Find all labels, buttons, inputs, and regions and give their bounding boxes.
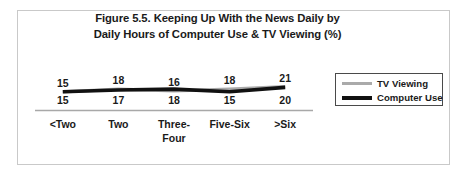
computer-use-value-label: 15 bbox=[217, 94, 243, 106]
computer-use-value-label: 17 bbox=[105, 94, 131, 106]
computer-use-value-label: 18 bbox=[161, 94, 187, 106]
category-axis-labels: <TwoTwoThree-FourFive-Six>Six bbox=[35, 118, 313, 156]
computer-use-line-swatch-icon bbox=[342, 96, 372, 100]
category-label-line: Three- bbox=[142, 118, 206, 132]
tv-viewing-line-swatch-icon bbox=[342, 82, 372, 85]
category-label-line: Two bbox=[86, 118, 150, 132]
category-label-line: >Six bbox=[253, 118, 317, 132]
tv-viewing-value-label: 16 bbox=[161, 76, 187, 88]
figure-container: Figure 5.5. Keeping Up With the News Dai… bbox=[0, 0, 468, 174]
category-label-line: <Two bbox=[31, 118, 95, 132]
computer-use-value-label: 20 bbox=[272, 94, 298, 106]
legend-item-tv-viewing: TV Viewing bbox=[336, 76, 442, 91]
chart-title-line-1: Figure 5.5. Keeping Up With the News Dai… bbox=[40, 11, 395, 27]
category-label: <Two bbox=[31, 118, 95, 132]
chart-title-line-2: Daily Hours of Computer Use & TV Viewing… bbox=[40, 27, 395, 43]
tv-viewing-value-label: 18 bbox=[217, 74, 243, 86]
category-label: >Six bbox=[253, 118, 317, 132]
chart-legend: TV Viewing Computer Use bbox=[335, 73, 443, 106]
category-label-line: Five-Six bbox=[198, 118, 262, 132]
tv-viewing-value-label: 15 bbox=[50, 77, 76, 89]
tv-viewing-value-label: 21 bbox=[272, 72, 298, 84]
category-label: Five-Six bbox=[198, 118, 262, 132]
category-label-line: Four bbox=[142, 132, 206, 146]
legend-label-tv-viewing: TV Viewing bbox=[377, 78, 428, 89]
chart-title: Figure 5.5. Keeping Up With the News Dai… bbox=[40, 11, 395, 42]
computer-use-value-label: 15 bbox=[50, 94, 76, 106]
tv-viewing-value-label: 18 bbox=[105, 74, 131, 86]
legend-label-computer-use: Computer Use bbox=[377, 92, 443, 103]
category-label: Three-Four bbox=[142, 118, 206, 145]
legend-item-computer-use: Computer Use bbox=[336, 90, 442, 105]
category-label: Two bbox=[86, 118, 150, 132]
